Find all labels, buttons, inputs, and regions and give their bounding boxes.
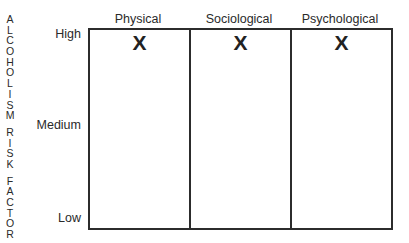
column-sociological: X — [189, 30, 290, 228]
axis-letter: R — [6, 127, 14, 138]
y-level-medium: Medium — [37, 118, 81, 132]
x-mark-icon: X — [191, 32, 290, 54]
y-level-low: Low — [58, 211, 81, 225]
column-header-sociological: Sociological — [189, 12, 289, 26]
risk-grid: X X X — [88, 28, 393, 230]
x-mark-icon: X — [292, 32, 391, 54]
axis-letter: I — [9, 89, 12, 100]
column-header-psychological: Psychological — [290, 12, 390, 26]
column-header-physical: Physical — [88, 12, 188, 26]
column-psychological: X — [290, 30, 391, 228]
column-physical: X — [90, 30, 189, 228]
axis-letter: R — [6, 229, 14, 240]
axis-letter: M — [6, 110, 15, 121]
axis-title-vertical: A L C O H O L I S M R I S K F A C T O R — [2, 14, 18, 240]
axis-letter: K — [6, 159, 13, 170]
y-level-high: High — [55, 27, 81, 41]
x-mark-icon: X — [90, 32, 189, 54]
